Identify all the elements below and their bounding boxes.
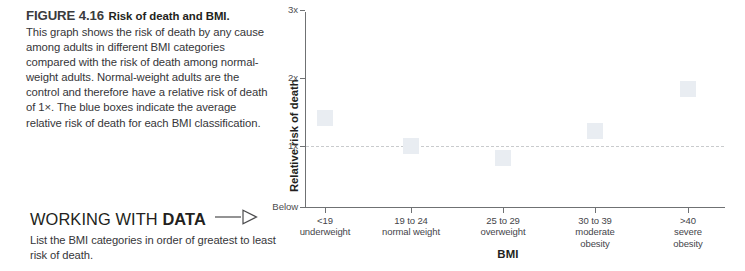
- y-tick-label: 3x: [254, 4, 298, 15]
- y-tick-mark: [300, 78, 305, 79]
- x-tick-mark: [595, 208, 596, 213]
- bmi-risk-chart: Relative risk of death BMI 3x2x1xBelow <…: [0, 0, 745, 271]
- y-tick-label: 1x: [254, 140, 298, 151]
- y-tick-mark: [300, 10, 305, 11]
- x-tick-label-line: obesity: [633, 238, 743, 249]
- data-point-box: [403, 138, 419, 154]
- data-point-box: [317, 110, 333, 126]
- x-tick-mark: [688, 208, 689, 213]
- x-tick-mark: [503, 208, 504, 213]
- x-tick-label-line: >40: [633, 215, 743, 226]
- y-tick-label: 2x: [254, 72, 298, 83]
- x-axis-title: BMI: [448, 248, 568, 260]
- y-tick-mark: [300, 146, 305, 147]
- x-tick-mark: [325, 208, 326, 213]
- y-tick-mark: [300, 207, 305, 208]
- y-axis-line: [305, 12, 306, 208]
- data-point-box: [495, 150, 511, 166]
- reference-line-1x: [306, 146, 724, 147]
- data-point-box: [680, 81, 696, 97]
- x-tick-label-line: severe: [633, 226, 743, 237]
- x-tick-mark: [411, 208, 412, 213]
- data-point-box: [587, 123, 603, 139]
- x-tick-label: >40severeobesity: [633, 215, 743, 249]
- x-axis-line: [305, 207, 725, 208]
- y-tick-label: Below: [254, 201, 298, 212]
